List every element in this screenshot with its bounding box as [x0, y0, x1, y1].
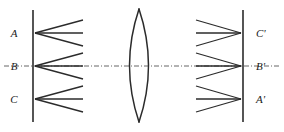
image-point-label-bp: B': [256, 60, 266, 72]
ray-from-c-2: [35, 99, 83, 112]
ray-from-b-0: [35, 53, 83, 66]
ray-to-ap-2: [196, 99, 241, 112]
ray-to-cp-2: [196, 33, 241, 46]
image-side-ray-bundles: [196, 20, 241, 112]
image-point-labels: C'B'A': [255, 27, 266, 105]
ray-from-b-2: [35, 66, 83, 79]
ray-to-cp-0: [196, 20, 241, 33]
object-point-label-b: B: [11, 60, 18, 72]
object-point-labels: ABC: [10, 27, 19, 105]
ray-to-ap-0: [196, 86, 241, 99]
image-point-label-ap: A': [255, 93, 266, 105]
object-point-label-c: C: [10, 93, 18, 105]
object-side-ray-bundles: [35, 20, 83, 112]
ray-from-c-0: [35, 86, 83, 99]
ray-from-a-0: [35, 20, 83, 33]
ray-to-bp-2: [196, 66, 241, 79]
object-point-label-a: A: [10, 27, 18, 39]
ray-from-a-2: [35, 33, 83, 46]
ray-to-bp-0: [196, 53, 241, 66]
optics-canvas: ABC C'B'A': [0, 0, 284, 132]
lens-left-surface: [130, 9, 140, 122]
optical-ray-diagram: ABC C'B'A': [0, 0, 284, 132]
image-point-label-cp: C': [256, 27, 266, 39]
lens-right-surface: [139, 9, 149, 122]
